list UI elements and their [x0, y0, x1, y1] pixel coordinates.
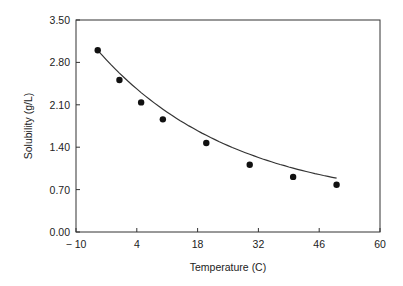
y-tick-label: 0.70	[50, 184, 71, 196]
x-tick-label: 46	[313, 238, 325, 250]
x-tick-label: − 10	[66, 238, 87, 250]
x-tick-label: 18	[192, 238, 204, 250]
data-point	[203, 140, 209, 146]
y-axis: 0.000.701.402.102.803.50	[50, 14, 80, 238]
data-point	[160, 116, 166, 122]
data-point	[138, 99, 144, 105]
y-axis-label: Solubility (g/L)	[22, 93, 34, 160]
solubility-chart: − 10418324660 0.000.701.402.102.803.50 T…	[0, 0, 403, 286]
y-tick-label: 2.80	[50, 56, 71, 68]
y-tick-label: 0.00	[50, 226, 71, 238]
data-point	[333, 182, 339, 188]
x-axis-label: Temperature (C)	[190, 261, 266, 273]
y-tick-label: 1.40	[50, 141, 71, 153]
x-tick-label: 60	[374, 238, 386, 250]
x-axis: − 10418324660	[66, 228, 386, 250]
data-point	[116, 77, 122, 83]
data-point	[95, 47, 101, 53]
x-tick-label: 4	[134, 238, 140, 250]
data-points	[95, 47, 340, 188]
plot-frame	[76, 20, 380, 232]
y-tick-label: 3.50	[50, 14, 71, 26]
x-tick-label: 32	[253, 238, 265, 250]
y-tick-label: 2.10	[50, 99, 71, 111]
data-point	[290, 174, 296, 180]
fit-curve	[98, 50, 337, 178]
data-point	[247, 162, 253, 168]
